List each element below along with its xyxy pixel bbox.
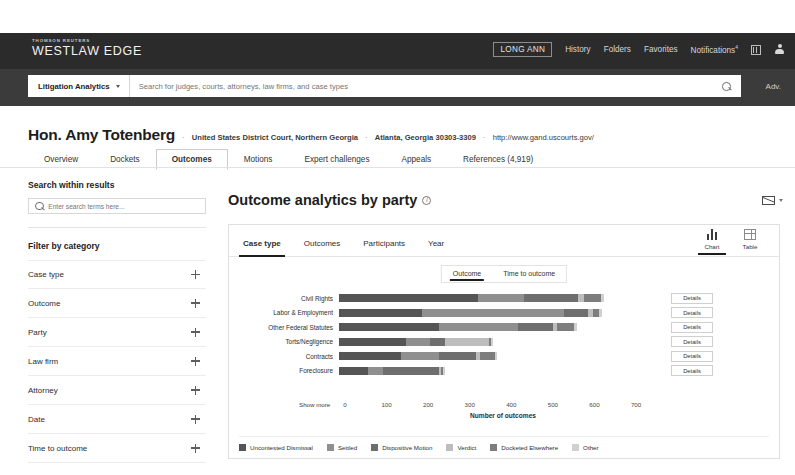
filter-row-outcome[interactable]: Outcome (28, 289, 206, 318)
global-search-input[interactable] (130, 82, 722, 91)
chart-bar-segment[interactable] (383, 367, 439, 375)
top-nav-links: LONG ANN History Folders Favorites Notif… (493, 42, 785, 57)
chart-bar-segment[interactable] (574, 323, 577, 331)
chart-bar-segment[interactable] (601, 294, 604, 302)
plus-icon[interactable] (191, 386, 200, 395)
plus-icon[interactable] (191, 415, 200, 424)
search-container: Litigation Analytics (28, 75, 741, 97)
filter-label: Case type (28, 270, 64, 279)
legend-item[interactable]: Dispositive Motion (371, 444, 432, 451)
legend-item[interactable]: Settled (327, 444, 357, 451)
chart-bar[interactable] (339, 309, 655, 317)
chart-axis: Show more 0100200300400500600700 Number … (229, 401, 781, 423)
plus-icon[interactable] (191, 270, 200, 279)
view-toggle-chart[interactable]: Chart (693, 229, 731, 254)
filter-row-case-type[interactable]: Case type (28, 260, 206, 289)
details-button[interactable]: Details (671, 293, 713, 304)
chart-bar-segment[interactable] (518, 323, 553, 331)
chart-bar-segment[interactable] (339, 323, 439, 331)
chart-bar-segment[interactable] (422, 309, 563, 317)
chart-bar-segment[interactable] (439, 352, 476, 360)
search-submit-icon[interactable] (722, 77, 731, 95)
chart-bar-segment[interactable] (491, 338, 493, 346)
filter-row-law-firm[interactable]: Law firm (28, 347, 206, 376)
advanced-search-link[interactable]: Adv. (766, 82, 781, 91)
chart-bar-segment[interactable] (401, 352, 438, 360)
filter-row-party[interactable]: Party (28, 318, 206, 347)
chart-bar-segment[interactable] (557, 323, 574, 331)
filter-label: Attorney (28, 386, 58, 395)
grid-icon[interactable] (751, 45, 761, 55)
search-within-results-field[interactable] (28, 198, 206, 214)
chart-bar-segment[interactable] (339, 309, 422, 317)
chart-bar-segment[interactable] (368, 367, 383, 375)
filter-row-date[interactable]: Date (28, 405, 206, 434)
brand-logo[interactable]: THOMSON REUTERS WESTLAW EDGE (32, 37, 142, 59)
judge-website-link[interactable]: http://www.gand.uscourts.gov/ (493, 133, 594, 142)
card-tab-participants[interactable]: Participants (363, 239, 405, 256)
chart-bar[interactable] (339, 338, 655, 346)
chart-row: ForeclosureDetails (229, 364, 781, 379)
nav-history-link[interactable]: History (565, 45, 590, 54)
x-axis-tick: 200 (423, 401, 433, 408)
chart-bar[interactable] (339, 367, 655, 375)
legend-item[interactable]: Other (572, 444, 598, 451)
analytics-card: Case typeOutcomesParticipantsYear ChartT… (228, 224, 780, 459)
chart-bar-segment[interactable] (439, 323, 518, 331)
card-tab-outcomes[interactable]: Outcomes (304, 239, 340, 256)
details-button[interactable]: Details (671, 322, 713, 333)
email-export-button[interactable] (762, 196, 783, 205)
metric-toggle-time-to-outcome[interactable]: Time to outcome (492, 266, 566, 282)
card-tab-case-type[interactable]: Case type (243, 239, 281, 256)
details-button[interactable]: Details (671, 336, 713, 347)
legend-item[interactable]: Uncontested Dismissal (239, 444, 313, 451)
search-within-results-input[interactable] (48, 203, 199, 210)
legend-swatch (446, 444, 453, 451)
info-icon[interactable]: i (422, 196, 431, 205)
filter-label: Date (28, 415, 45, 424)
chart-bar-segment[interactable] (445, 338, 489, 346)
x-axis-tick: 600 (589, 401, 599, 408)
chart-bar-segment[interactable] (524, 294, 578, 302)
chart-bar[interactable] (339, 352, 655, 360)
view-toggle-table[interactable]: Table (731, 229, 769, 254)
details-button[interactable]: Details (671, 351, 713, 362)
person-icon[interactable] (774, 44, 785, 55)
chart-bar[interactable] (339, 294, 655, 302)
show-more-link[interactable]: Show more (299, 401, 330, 408)
metric-toggle-outcome[interactable]: Outcome (442, 266, 492, 282)
legend-item[interactable]: Verdict (446, 444, 476, 451)
chart-bar-segment[interactable] (495, 352, 497, 360)
chart-bar-segment[interactable] (339, 352, 401, 360)
chart-bar-segment[interactable] (599, 309, 602, 317)
legend-item[interactable]: Docketed Elsewhere (490, 444, 558, 451)
search-scope-dropdown[interactable]: Litigation Analytics (28, 75, 130, 97)
chart-bar-segment[interactable] (564, 309, 589, 317)
details-button[interactable]: Details (671, 365, 713, 376)
details-button[interactable]: Details (671, 307, 713, 318)
chart-bar[interactable] (339, 323, 655, 331)
nav-favorites-link[interactable]: Favorites (644, 45, 678, 54)
plus-icon[interactable] (191, 328, 200, 337)
plus-icon[interactable] (191, 357, 200, 366)
chart-bar-segment[interactable] (443, 367, 445, 375)
filter-row-attorney[interactable]: Attorney (28, 376, 206, 405)
chart-bar-segment[interactable] (430, 338, 445, 346)
chart-bar-segment[interactable] (339, 367, 368, 375)
nav-notifications-link[interactable]: Notifications4 (691, 44, 738, 55)
user-name-button[interactable]: LONG ANN (493, 42, 552, 57)
plus-icon[interactable] (191, 444, 200, 453)
chart-bar-segment[interactable] (478, 294, 524, 302)
filter-row-time-to-outcome[interactable]: Time to outcome (28, 434, 206, 463)
chart-legend: Uncontested DismissalSettledDispositive … (239, 436, 769, 451)
chart-bar-segment[interactable] (339, 294, 478, 302)
chart-bar-segment[interactable] (339, 338, 406, 346)
chart-category-label: Other Federal Statutes (229, 324, 339, 331)
chart-bar-segment[interactable] (584, 294, 601, 302)
card-tab-year[interactable]: Year (428, 239, 444, 256)
plus-icon[interactable] (191, 299, 200, 308)
chart-bar-segment[interactable] (480, 352, 495, 360)
chart-bar-segment[interactable] (406, 338, 431, 346)
x-axis-tick: 500 (548, 401, 558, 408)
nav-folders-link[interactable]: Folders (604, 45, 631, 54)
